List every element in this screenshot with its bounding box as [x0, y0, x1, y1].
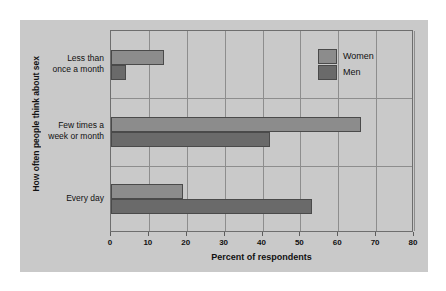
x-axis-tick-label: 80 [409, 238, 418, 247]
x-axis-tick-label: 20 [181, 238, 190, 247]
chart-legend: Women Men [318, 48, 374, 80]
category-label-line: once a month [52, 64, 104, 75]
category-label-line: Few times a [48, 120, 104, 131]
x-axis-tick-mark [375, 232, 376, 236]
x-axis-tick-mark [224, 232, 225, 236]
gridline-horizontal [111, 98, 412, 99]
x-axis-tick-label: 50 [295, 238, 304, 247]
chart-figure: How often people think about sex Percent… [0, 0, 446, 291]
x-axis-tick-mark [110, 232, 111, 236]
x-axis-tick-label: 30 [219, 238, 228, 247]
gridline-vertical [414, 31, 415, 231]
gridline-vertical [376, 31, 377, 231]
legend-swatch-women-icon [318, 49, 337, 64]
x-axis-tick-mark [262, 232, 263, 236]
legend-label-women: Women [343, 51, 374, 61]
category-label-line: Less than [52, 53, 104, 64]
bar-men-0 [111, 65, 126, 80]
category-label-line: Every day [66, 193, 104, 204]
bar-women-2 [111, 184, 183, 199]
x-axis-tick-mark [148, 232, 149, 236]
x-axis-tick-label: 10 [143, 238, 152, 247]
category-label-line: week or month [48, 131, 104, 142]
bar-men-1 [111, 132, 270, 147]
gridline-horizontal [111, 166, 412, 167]
x-axis-tick-mark [337, 232, 338, 236]
x-axis-tick-label: 70 [371, 238, 380, 247]
bar-women-0 [111, 50, 164, 65]
bar-men-2 [111, 199, 312, 214]
x-axis-tick-label: 0 [108, 238, 112, 247]
bar-women-1 [111, 117, 361, 132]
legend-label-men: Men [343, 67, 361, 77]
legend-item-women: Women [318, 48, 374, 64]
y-axis-title: How often people think about sex [31, 56, 41, 192]
x-axis-tick-label: 40 [257, 238, 266, 247]
category-label: Less thanonce a month [52, 53, 104, 75]
x-axis-tick-mark [186, 232, 187, 236]
category-label: Few times aweek or month [48, 120, 104, 142]
x-axis-tick-mark [413, 232, 414, 236]
x-axis-title: Percent of respondents [110, 252, 413, 262]
category-label: Every day [66, 193, 104, 204]
x-axis-tick-mark [299, 232, 300, 236]
legend-swatch-men-icon [318, 65, 337, 80]
legend-item-men: Men [318, 64, 374, 80]
x-axis-tick-label: 60 [333, 238, 342, 247]
